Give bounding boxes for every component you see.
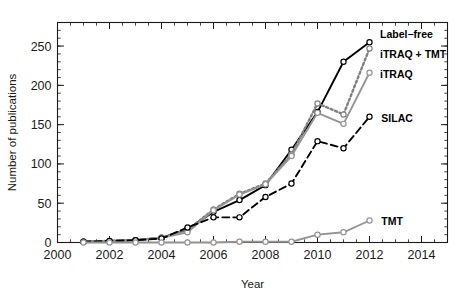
y-tick-label: 50: [38, 197, 52, 211]
data-point[interactable]: [211, 215, 216, 220]
series-line: [84, 221, 370, 243]
data-point[interactable]: [237, 192, 242, 197]
x-tick-label: 2004: [148, 248, 176, 262]
data-point[interactable]: [341, 59, 346, 64]
series-label-free: [81, 40, 372, 245]
y-tick-label: 0: [45, 236, 52, 250]
data-point[interactable]: [341, 146, 346, 151]
data-point[interactable]: [289, 239, 294, 244]
series-label-group: Label−freeiTRAQ + TMTiTRAQSILACTMT: [380, 28, 447, 228]
series-line: [84, 73, 370, 242]
data-point[interactable]: [315, 101, 320, 106]
series-itraq-tmt: [81, 46, 372, 244]
x-tick-label: 2002: [96, 248, 124, 262]
y-tick-label: 200: [31, 79, 52, 93]
data-point[interactable]: [315, 110, 320, 115]
y-tick-label: 250: [31, 40, 52, 54]
data-point[interactable]: [315, 139, 320, 144]
series-label-itraq-tmt: iTRAQ + TMT: [380, 48, 447, 60]
data-point[interactable]: [367, 70, 372, 75]
y-axis-title: Number of publications: [6, 73, 18, 191]
series-label-label-free: Label−free: [380, 28, 433, 40]
data-point[interactable]: [341, 121, 346, 126]
data-point[interactable]: [133, 240, 138, 245]
data-point[interactable]: [159, 240, 164, 245]
figure-container: 2000200220042006200820102012201405010015…: [0, 0, 461, 297]
x-tick-label: 2012: [356, 248, 384, 262]
data-point[interactable]: [263, 194, 268, 199]
data-point[interactable]: [367, 218, 372, 223]
data-point[interactable]: [315, 232, 320, 237]
series-silac: [81, 114, 372, 244]
data-point[interactable]: [289, 153, 294, 158]
series-group: [81, 40, 372, 246]
data-point[interactable]: [185, 240, 190, 245]
publications-line-chart: 2000200220042006200820102012201405010015…: [0, 0, 461, 297]
series-line: [84, 42, 370, 242]
data-point[interactable]: [237, 197, 242, 202]
series-label-silac: SILAC: [381, 112, 413, 124]
series-label-tmt: TMT: [381, 215, 403, 227]
data-point[interactable]: [237, 215, 242, 220]
data-point[interactable]: [81, 240, 86, 245]
data-point[interactable]: [185, 225, 190, 230]
x-tick-label: 2006: [200, 248, 228, 262]
data-point[interactable]: [211, 208, 216, 213]
data-point[interactable]: [237, 239, 242, 244]
x-axis-title: Year: [241, 278, 264, 290]
data-point[interactable]: [341, 112, 346, 117]
series-line: [84, 48, 370, 241]
x-tick-label: 2014: [408, 248, 436, 262]
data-point[interactable]: [107, 240, 112, 245]
data-point[interactable]: [367, 40, 372, 45]
y-tick-label: 100: [31, 157, 52, 171]
series-line: [84, 117, 370, 242]
x-tick-label: 2008: [252, 248, 280, 262]
data-point[interactable]: [367, 114, 372, 119]
data-point[interactable]: [367, 46, 372, 51]
data-point[interactable]: [341, 230, 346, 235]
series-label-itraq: iTRAQ: [380, 68, 413, 80]
y-tick-label: 150: [31, 118, 52, 132]
data-point[interactable]: [263, 239, 268, 244]
data-point[interactable]: [289, 181, 294, 186]
data-point[interactable]: [211, 240, 216, 245]
x-tick-label: 2010: [304, 248, 332, 262]
data-point[interactable]: [263, 182, 268, 187]
